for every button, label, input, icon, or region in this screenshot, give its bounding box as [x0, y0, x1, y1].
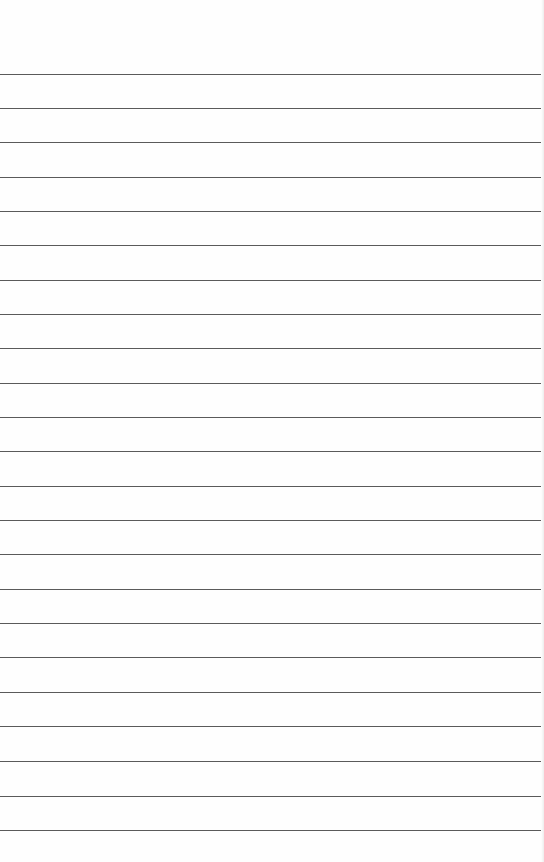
- ruled-line: [0, 211, 541, 212]
- lined-paper-page: [0, 0, 544, 862]
- ruled-line: [0, 108, 541, 109]
- ruled-line: [0, 74, 541, 75]
- ruled-line: [0, 692, 541, 693]
- ruled-line: [0, 383, 541, 384]
- ruled-line: [0, 830, 541, 831]
- ruled-line: [0, 142, 541, 143]
- ruled-line: [0, 451, 541, 452]
- ruled-line: [0, 348, 541, 349]
- ruled-line: [0, 177, 541, 178]
- ruled-line: [0, 280, 541, 281]
- ruled-line: [0, 417, 541, 418]
- ruled-line: [0, 554, 541, 555]
- ruled-line: [0, 245, 541, 246]
- ruled-line: [0, 796, 541, 797]
- ruled-line: [0, 761, 541, 762]
- ruled-line: [0, 726, 541, 727]
- ruled-line: [0, 589, 541, 590]
- ruled-line: [0, 657, 541, 658]
- ruled-line: [0, 623, 541, 624]
- ruled-line: [0, 520, 541, 521]
- ruled-line: [0, 314, 541, 315]
- ruled-line: [0, 486, 541, 487]
